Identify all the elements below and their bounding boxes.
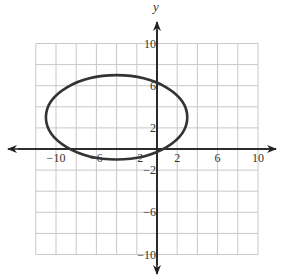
x-tick-label: −10 [47,151,66,165]
y-tick-label: 2 [150,121,156,135]
axes [8,22,276,274]
y-tick-label: −10 [137,248,156,262]
y-axis-label: y [151,0,159,14]
y-tick-label: 10 [144,37,156,51]
x-tick-label: 10 [252,151,264,165]
coordinate-plane: −10−6−226101062−2−6−10 y [0,0,286,279]
y-tick-label: −2 [143,163,156,177]
y-tick-label: −6 [143,205,156,219]
x-tick-label: 2 [174,151,180,165]
x-tick-label: 6 [215,151,221,165]
